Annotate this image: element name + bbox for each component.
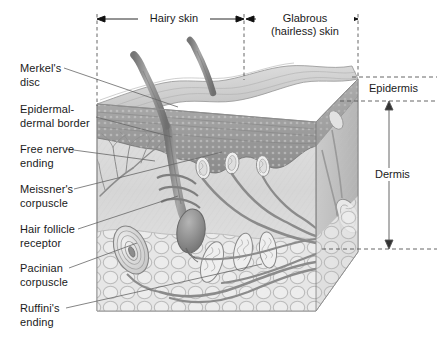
label-epidermal-dermal-border: Epidermal- dermal border bbox=[20, 103, 90, 130]
layer-label-epidermis: Epidermis bbox=[366, 82, 421, 95]
label-ruffinis-ending: Ruffini's ending bbox=[20, 302, 59, 329]
bracket-label-hairy-skin: Hairy skin bbox=[138, 12, 210, 25]
label-hair-follicle-receptor: Hair follicle receptor bbox=[20, 223, 75, 250]
label-free-nerve-ending: Free nerve ending bbox=[20, 143, 74, 170]
label-meissners-corpuscle: Meissner's corpuscle bbox=[20, 183, 73, 210]
bracket-label-glabrous-skin: Glabrous (hairless) skin bbox=[256, 12, 354, 38]
label-pacinian-corpuscle: Pacinian corpuscle bbox=[20, 262, 68, 289]
skin-receptors-figure: Hairy skin Glabrous (hairless) skin Epid… bbox=[0, 0, 445, 343]
layer-label-dermis: Dermis bbox=[372, 168, 413, 181]
label-merkels-disc: Merkel's disc bbox=[20, 62, 61, 89]
